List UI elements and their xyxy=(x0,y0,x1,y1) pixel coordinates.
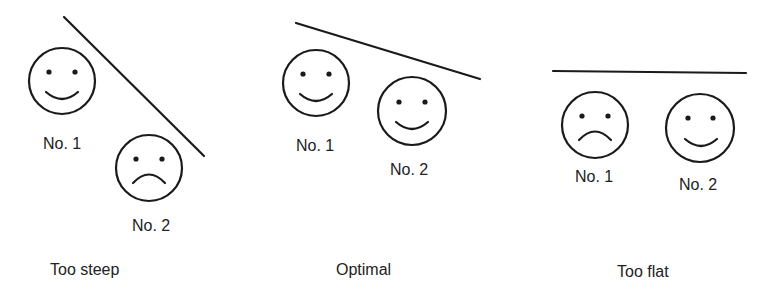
panel-too-flat xyxy=(553,71,746,162)
face-label-no2: No. 2 xyxy=(132,217,170,235)
face-label-no1: No. 1 xyxy=(575,168,613,186)
happy-face-icon xyxy=(378,77,446,145)
caption-too-steep: Too steep xyxy=(50,261,119,279)
happy-face-icon xyxy=(666,94,734,162)
slope-line xyxy=(553,71,746,73)
face-label-no1: No. 1 xyxy=(43,135,81,153)
face-label-no1: No. 1 xyxy=(296,137,334,155)
happy-face-icon xyxy=(29,48,95,114)
panel-optimal xyxy=(283,23,480,145)
caption-too-flat: Too flat xyxy=(617,263,669,281)
face-label-no2: No. 2 xyxy=(679,176,717,194)
sad-face-icon xyxy=(116,135,182,201)
caption-optimal: Optimal xyxy=(336,261,391,279)
happy-face-icon xyxy=(283,50,349,116)
panel-too-steep xyxy=(29,17,204,201)
slope-line xyxy=(64,17,204,156)
sad-face-icon xyxy=(562,92,628,158)
face-label-no2: No. 2 xyxy=(390,161,428,179)
diagram-canvas xyxy=(0,0,769,303)
